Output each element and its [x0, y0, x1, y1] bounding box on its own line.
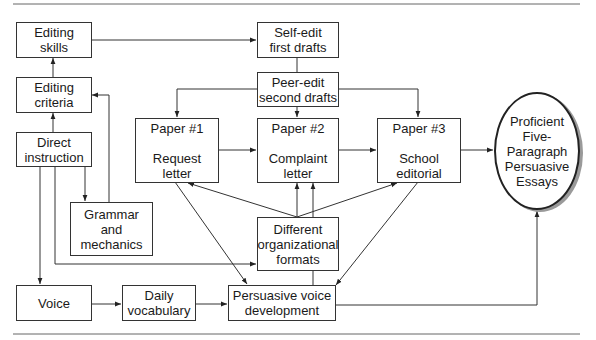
- node-label: Different: [274, 222, 323, 237]
- node-label: letter: [163, 166, 192, 181]
- node-organizational-formats: Different organizational formats: [257, 217, 339, 271]
- node-editing-criteria: Editing criteria: [16, 77, 92, 113]
- node-editing-skills: Editing skills: [16, 22, 92, 58]
- node-label: Daily: [145, 288, 174, 303]
- node-paper-2: Paper #2 Complaint letter: [257, 118, 339, 183]
- node-label: instruction: [24, 150, 83, 165]
- node-daily-vocabulary: Daily vocabulary: [122, 285, 196, 321]
- node-label: mechanics: [80, 237, 142, 252]
- node-label: Grammar: [84, 207, 139, 222]
- node-voice: Voice: [16, 285, 92, 321]
- node-label: formats: [276, 252, 319, 267]
- node-grammar-mechanics: Grammar and mechanics: [70, 202, 153, 256]
- node-label: Essays: [516, 174, 558, 189]
- node-title: Paper #2: [272, 121, 325, 136]
- node-label: Complaint: [269, 151, 328, 166]
- node-label: Voice: [38, 296, 70, 311]
- node-label: Editing: [34, 25, 74, 40]
- node-label: Five-: [523, 129, 552, 144]
- node-label: Paragraph: [507, 144, 568, 159]
- node-paper-1: Paper #1 Request letter: [135, 118, 219, 183]
- node-label: School: [399, 151, 439, 166]
- node-label: criteria: [34, 95, 73, 110]
- node-title: Paper #3: [393, 121, 446, 136]
- node-label: Proficient: [510, 114, 564, 129]
- node-persuasive-voice: Persuasive voice development: [228, 285, 336, 321]
- node-label: Peer-edit: [272, 75, 325, 90]
- node-label: first drafts: [269, 40, 326, 55]
- node-label: Self-edit: [274, 25, 322, 40]
- node-peer-edit: Peer-edit second drafts: [257, 72, 339, 107]
- node-direct-instruction: Direct instruction: [16, 132, 92, 167]
- node-label: vocabulary: [128, 303, 191, 318]
- node-label: Request: [153, 151, 201, 166]
- node-paper-3: Paper #3 School editorial: [377, 118, 461, 183]
- node-label: second drafts: [259, 90, 337, 105]
- node-label: Persuasive: [505, 159, 569, 174]
- node-label: Persuasive voice: [233, 288, 331, 303]
- node-label: editorial: [396, 166, 442, 181]
- node-label: letter: [284, 166, 313, 181]
- node-label: development: [245, 303, 319, 318]
- node-label: Editing: [34, 80, 74, 95]
- node-outcome-ellipse: Proficient Five- Paragraph Persuasive Es…: [494, 92, 580, 210]
- node-self-edit: Self-edit first drafts: [257, 22, 339, 58]
- node-label: Direct: [37, 135, 71, 150]
- node-label: skills: [40, 40, 68, 55]
- node-title: Paper #1: [151, 121, 204, 136]
- node-label: organizational: [258, 237, 339, 252]
- node-label: and: [101, 222, 123, 237]
